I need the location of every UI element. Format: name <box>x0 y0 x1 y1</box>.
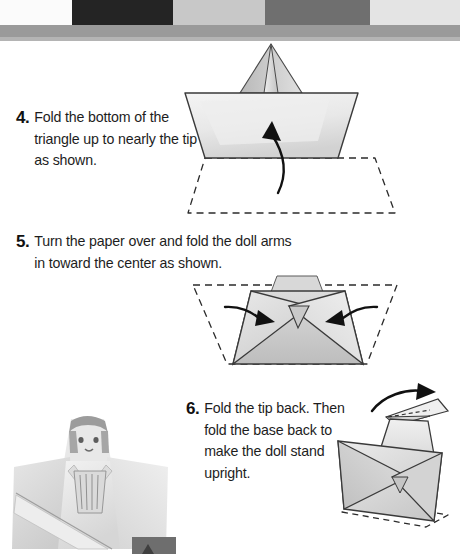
step-6-diagram <box>330 381 460 551</box>
step-5-instruction: Turn the paper over and fold the doll ar… <box>34 231 306 274</box>
step-6: 6. Fold the tip back. Then fold the base… <box>186 398 346 484</box>
doll-chest-panel <box>74 471 106 513</box>
step-4-dashed-outline <box>188 158 395 213</box>
step-6-text-block: 6. Fold the tip back. Then fold the base… <box>186 398 346 484</box>
doll-eye-left <box>78 437 83 443</box>
step-5: 5. Turn the paper over and fold the doll… <box>16 231 306 274</box>
step-6-arrow-head <box>416 383 436 400</box>
calibration-swatch-white <box>0 0 72 25</box>
step-5-diagram <box>185 276 405 386</box>
step-4-diagram <box>180 41 395 226</box>
doll-eye-right <box>93 437 98 443</box>
calibration-swatch-mid-gray <box>265 0 370 25</box>
step-5-text-block: 5. Turn the paper over and fold the doll… <box>16 231 306 274</box>
doll-base-shadow <box>132 537 176 554</box>
step-5-number: 5. <box>16 231 29 252</box>
step-5-tip-remnant <box>271 276 323 292</box>
scan-bar-shadow <box>0 25 460 37</box>
step-4-number: 4. <box>16 107 29 128</box>
step-6-instruction: Fold the tip back. Then fold the base ba… <box>204 398 346 484</box>
color-calibration-bar <box>0 0 460 25</box>
instruction-page: 4. Fold the bottom of the triangle up to… <box>0 41 460 551</box>
doll-hair-right <box>101 431 109 453</box>
calibration-swatch-near-white <box>370 0 460 25</box>
calibration-swatch-light-gray <box>173 0 265 25</box>
finished-paper-doll-photo <box>8 409 198 554</box>
calibration-swatch-black <box>72 0 173 25</box>
